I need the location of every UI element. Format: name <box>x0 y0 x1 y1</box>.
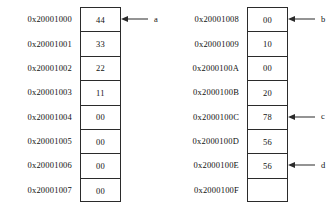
memory-cell: 00 <box>81 106 120 130</box>
memory-cell: 00 <box>81 179 120 203</box>
right-address-column: 0x20001008 0x20001009 0x2000100A 0x20001… <box>171 7 245 202</box>
left-memory-block: 44 33 22 11 00 00 00 00 <box>80 7 121 202</box>
address-label: 0x20001007 <box>4 178 78 202</box>
address-label: 0x2000100B <box>171 80 245 104</box>
memory-cell <box>248 179 287 203</box>
memory-cell: 56 <box>248 130 287 154</box>
memory-cell: 78 <box>248 106 287 130</box>
arrow-head-icon <box>288 114 295 120</box>
arrow-head-icon <box>121 16 128 22</box>
left-arrow-icon <box>121 14 149 24</box>
pointer-label: c <box>321 112 325 121</box>
memory-cell: 20 <box>248 81 287 105</box>
memory-cell: 10 <box>248 32 287 56</box>
address-label: 0x20001006 <box>4 153 78 177</box>
left-address-column: 0x20001000 0x20001001 0x20001002 0x20001… <box>4 7 78 202</box>
pointer-annotation-c: c <box>288 105 325 129</box>
address-label: 0x2000100D <box>171 129 245 153</box>
pointer-annotation-d: d <box>288 153 325 177</box>
arrow-line <box>127 19 148 20</box>
address-label: 0x20001000 <box>4 7 78 31</box>
memory-cell: 33 <box>81 32 120 56</box>
arrow-head-icon <box>288 16 295 22</box>
address-label: 0x20001001 <box>4 31 78 55</box>
left-arrow-icon <box>288 14 316 24</box>
memory-diagram: 0x20001000 0x20001001 0x20001002 0x20001… <box>0 0 334 213</box>
memory-cell: 00 <box>248 57 287 81</box>
address-label: 0x20001009 <box>171 31 245 55</box>
memory-cell: 00 <box>81 154 120 178</box>
address-label: 0x2000100F <box>171 178 245 202</box>
memory-cell: 44 <box>81 8 120 32</box>
pointer-label: b <box>321 15 325 24</box>
address-label: 0x2000100E <box>171 153 245 177</box>
arrow-line <box>294 19 315 20</box>
address-label: 0x20001002 <box>4 56 78 80</box>
address-label: 0x20001003 <box>4 80 78 104</box>
address-label: 0x2000100A <box>171 56 245 80</box>
address-label: 0x20001008 <box>171 7 245 31</box>
memory-cell: 11 <box>81 81 120 105</box>
pointer-annotation-a: a <box>121 7 158 31</box>
pointer-label: d <box>321 161 325 170</box>
arrow-head-icon <box>288 162 295 168</box>
address-label: 0x2000100C <box>171 105 245 129</box>
memory-cell: 56 <box>248 154 287 178</box>
memory-cell: 22 <box>81 57 120 81</box>
pointer-label: a <box>154 15 158 24</box>
right-memory-block: 00 10 00 20 78 56 56 <box>247 7 288 202</box>
arrow-line <box>294 116 315 117</box>
address-label: 0x20001004 <box>4 105 78 129</box>
pointer-annotation-b: b <box>288 7 325 31</box>
left-arrow-icon <box>288 112 316 122</box>
left-arrow-icon <box>288 160 316 170</box>
arrow-line <box>294 165 315 166</box>
address-label: 0x20001005 <box>4 129 78 153</box>
memory-cell: 00 <box>248 8 287 32</box>
memory-cell: 00 <box>81 130 120 154</box>
